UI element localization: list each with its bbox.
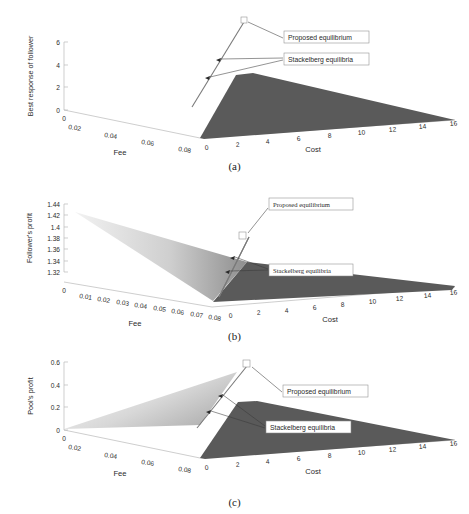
z-tick: 0.2 bbox=[51, 404, 60, 411]
fee-tick: 0.08 bbox=[208, 313, 222, 322]
panel-b: 1.44 1.42 1.4 1.38 1.36 1.34 1.32 Follow… bbox=[0, 174, 469, 346]
fee-tick: 0.02 bbox=[68, 123, 82, 132]
cost-tick: 8 bbox=[340, 301, 345, 308]
z-tick: 1.36 bbox=[47, 246, 60, 253]
cost-tick: 0 bbox=[228, 312, 233, 319]
cost-tick: 14 bbox=[418, 442, 426, 450]
subcaption-c: (c) bbox=[0, 496, 469, 508]
fee-tick: 0.04 bbox=[134, 301, 148, 310]
cost-tick: 0 bbox=[204, 464, 209, 471]
fee-tick: 0.04 bbox=[104, 451, 118, 460]
cost-tick: 14 bbox=[418, 122, 426, 130]
subcaption-a: (a) bbox=[0, 160, 469, 172]
fee-tick: 0.08 bbox=[178, 145, 192, 154]
z-tick: 2 bbox=[56, 84, 60, 91]
z-tick: 6 bbox=[56, 39, 60, 46]
z-tick: 1.44 bbox=[47, 201, 60, 208]
panel-b-callout-proposed: Proposed equilibrium bbox=[273, 201, 331, 208]
panel-b-leader-proposed bbox=[248, 208, 268, 233]
cost-tick: 4 bbox=[265, 458, 270, 465]
z-tick: 0 bbox=[56, 427, 60, 434]
cost-axis-label: Cost bbox=[322, 315, 339, 324]
z-tick: 0 bbox=[56, 107, 60, 114]
cost-tick: 10 bbox=[357, 128, 365, 136]
z-tick: 1.38 bbox=[47, 235, 60, 242]
panel-a-leader-stack-1 bbox=[221, 58, 283, 59]
panel-b-z-axis: 1.44 1.42 1.4 1.38 1.36 1.34 1.32 Follow… bbox=[25, 201, 68, 276]
panel-b-surface-light bbox=[75, 212, 247, 301]
cost-tick: 2 bbox=[256, 309, 261, 316]
fee-tick: 0.04 bbox=[104, 131, 118, 140]
z-axis-label: Follower's profit bbox=[25, 213, 34, 263]
fee-tick: 0.05 bbox=[153, 304, 167, 313]
cost-tick: 12 bbox=[388, 125, 396, 133]
z-axis-label: Pool's profit bbox=[26, 377, 35, 414]
z-tick: 1.4 bbox=[51, 224, 60, 231]
fee-tick: 0.06 bbox=[141, 458, 155, 467]
cost-tick: 10 bbox=[357, 448, 365, 456]
panel-b-callout-stackelberg: Stackelberg equilibria bbox=[273, 267, 331, 274]
origin-tick: 0 bbox=[62, 115, 66, 122]
panel-c-leader-proposed bbox=[252, 367, 282, 392]
panel-a-proposed-marker bbox=[241, 17, 247, 23]
panel-a-fee-axis: 0.02 0.04 0.06 0.08 Fee bbox=[68, 123, 192, 157]
panel-c-proposed-marker bbox=[243, 360, 250, 367]
panel-a-z-axis: 6 4 2 0 Best response of follower bbox=[26, 35, 68, 116]
cost-tick: 14 bbox=[423, 291, 431, 299]
cost-tick: 16 bbox=[449, 119, 457, 127]
cost-tick: 4 bbox=[265, 138, 270, 145]
cost-tick: 10 bbox=[368, 297, 376, 305]
panel-c-surface-light bbox=[64, 372, 237, 429]
z-tick: 1.42 bbox=[47, 212, 60, 219]
fee-tick: 0.02 bbox=[97, 295, 111, 304]
cost-axis-label: Cost bbox=[305, 145, 322, 154]
fee-tick: 0.01 bbox=[79, 292, 93, 301]
z-tick: 1.34 bbox=[47, 258, 60, 265]
panel-c-z-axis: 0.6 0.4 0.2 0 Pool's profit bbox=[26, 359, 68, 434]
panel-b-proposed-marker bbox=[239, 232, 246, 239]
cost-tick: 8 bbox=[327, 452, 332, 459]
z-tick: 1.32 bbox=[47, 269, 60, 276]
panel-c-callout-proposed: Proposed equilibrium bbox=[287, 388, 351, 396]
fee-tick: 0.03 bbox=[116, 298, 130, 307]
cost-tick: 16 bbox=[449, 439, 457, 447]
panel-b-fee-axis: 0.01 0.02 0.03 0.04 0.05 0.06 0.07 0.08 … bbox=[79, 292, 222, 328]
origin-tick: 0 bbox=[62, 435, 66, 442]
z-axis-label: Best response of follower bbox=[26, 35, 35, 116]
fee-tick: 0.06 bbox=[141, 138, 155, 147]
fee-tick: 0.06 bbox=[171, 307, 185, 316]
cost-tick: 6 bbox=[296, 135, 301, 142]
z-tick: 4 bbox=[56, 62, 60, 69]
origin-tick: 0 bbox=[62, 287, 66, 294]
panel-c-fee-axis: 0.02 0.04 0.06 0.08 Fee bbox=[68, 443, 192, 478]
panel-a-surface-dark bbox=[200, 73, 455, 139]
fee-tick: 0.02 bbox=[68, 443, 82, 452]
fee-axis-label: Fee bbox=[128, 319, 141, 328]
fee-tick: 0.08 bbox=[178, 465, 192, 474]
cost-tick: 12 bbox=[388, 445, 396, 453]
panel-c-callout-stackelberg: Stackelberg equilibria bbox=[270, 424, 335, 432]
cost-tick: 4 bbox=[284, 307, 289, 314]
cost-tick: 6 bbox=[312, 304, 317, 311]
cost-tick: 2 bbox=[235, 461, 240, 468]
panel-a-callout-stackelberg: Stackelberg equilibria bbox=[288, 56, 353, 64]
panel-a-callout-proposed: Proposed equilibrium bbox=[288, 34, 352, 42]
cost-tick: 6 bbox=[296, 455, 301, 462]
z-tick: 0.4 bbox=[51, 382, 60, 389]
cost-tick: 0 bbox=[204, 144, 209, 151]
fee-axis-label: Fee bbox=[113, 148, 126, 157]
panel-a-leader-proposed bbox=[248, 22, 283, 38]
z-tick: 0.6 bbox=[51, 359, 60, 366]
fee-axis-label: Fee bbox=[113, 469, 126, 478]
cost-tick: 2 bbox=[235, 141, 240, 148]
cost-axis-label: Cost bbox=[305, 467, 322, 476]
panel-a: 6 4 2 0 Best response of follower 0 0.02… bbox=[0, 0, 469, 180]
cost-tick: 8 bbox=[327, 132, 332, 139]
fee-tick: 0.07 bbox=[190, 310, 204, 319]
panel-c: 0.6 0.4 0.2 0 Pool's profit 0 0.02 0.04 … bbox=[0, 340, 469, 514]
cost-tick: 12 bbox=[395, 294, 403, 302]
